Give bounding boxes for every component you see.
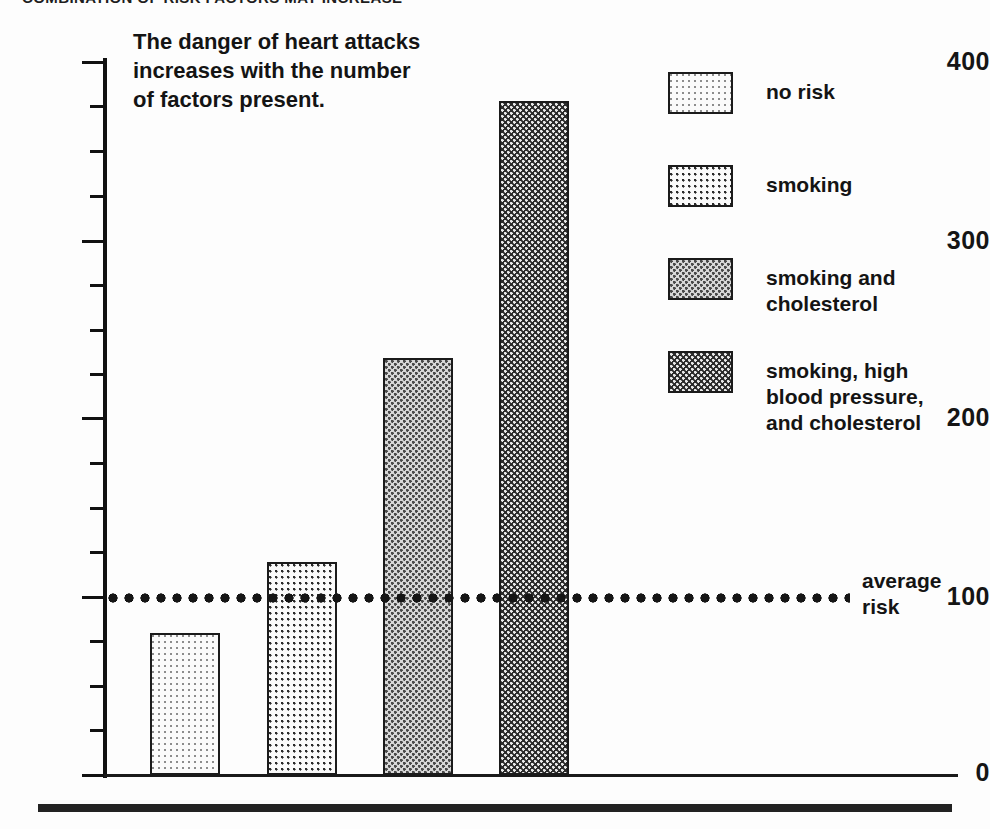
average-risk-label: average risk (862, 568, 941, 620)
bar-no-risk[interactable] (150, 633, 220, 775)
average-risk-label-line-2: risk (862, 594, 941, 620)
y-tick-400 (82, 61, 104, 64)
y-tick-label-200: 200 (912, 403, 990, 432)
legend-swatch-smoking (668, 165, 733, 207)
legend-swatch-smoking-cholesterol (668, 258, 733, 300)
y-minor-tick-350 (90, 150, 104, 153)
annotation-line-3: of factors present. (133, 85, 463, 114)
bar-smoking-bp-cholesterol[interactable] (499, 101, 569, 775)
y-tick-100 (82, 596, 104, 599)
y-minor-tick-275 (90, 284, 104, 287)
y-minor-tick-325 (90, 195, 104, 198)
legend-label-smoking-cholesterol-line-2: cholesterol (766, 291, 896, 317)
legend-swatch-smoking-bp-cholesterol (668, 351, 733, 393)
y-minor-tick-25 (90, 729, 104, 732)
y-tick-200 (82, 417, 104, 420)
bar-smoking-and-cholesterol[interactable] (383, 358, 453, 775)
annotation-line-1: The danger of heart attacks (133, 27, 463, 56)
y-tick-label-400: 400 (912, 47, 990, 76)
y-minor-tick-150 (90, 507, 104, 510)
legend-label-smoking-bp-cholesterol-line-2: blood pressure, (766, 384, 924, 410)
legend-label-no-risk-line-1: no risk (766, 79, 835, 105)
annotation-line-2: increases with the number (133, 56, 463, 85)
legend-label-smoking-cholesterol: smoking and cholesterol (766, 258, 896, 317)
legend-item-smoking-bp-cholesterol[interactable]: smoking, high blood pressure, and choles… (668, 351, 924, 436)
average-risk-label-line-1: average (862, 568, 941, 594)
y-tick-label-300: 300 (912, 226, 990, 255)
y-minor-tick-225 (90, 373, 104, 376)
average-risk-line (108, 593, 850, 603)
y-minor-tick-125 (90, 551, 104, 554)
legend-item-smoking[interactable]: smoking (668, 165, 852, 207)
legend-label-no-risk: no risk (766, 72, 835, 105)
y-tick-0 (82, 774, 104, 777)
legend-label-smoking-cholesterol-line-1: smoking and (766, 265, 896, 291)
y-tick-300 (82, 240, 104, 243)
legend-swatch-no-risk (668, 72, 733, 114)
y-minor-tick-175 (90, 462, 104, 465)
legend-label-smoking: smoking (766, 165, 852, 198)
y-minor-tick-50 (90, 685, 104, 688)
legend-item-no-risk[interactable]: no risk (668, 72, 835, 114)
bar-chart-plot: 400 300 200 100 0 The danger of heart at… (0, 0, 990, 829)
legend-item-smoking-cholesterol[interactable]: smoking and cholesterol (668, 258, 896, 317)
y-minor-tick-250 (90, 329, 104, 332)
y-minor-tick-75 (90, 640, 104, 643)
bottom-rule (38, 804, 952, 812)
y-tick-label-0: 0 (912, 758, 990, 787)
legend-label-smoking-line-1: smoking (766, 172, 852, 198)
legend-label-smoking-bp-cholesterol-line-3: and cholesterol (766, 410, 924, 436)
legend-label-smoking-bp-cholesterol: smoking, high blood pressure, and choles… (766, 351, 924, 436)
legend-label-smoking-bp-cholesterol-line-1: smoking, high (766, 358, 924, 384)
annotation-callout: The danger of heart attacks increases wi… (133, 27, 463, 114)
chart-page: COMBINATION OF RISK FACTORS MAY INCREASE… (0, 0, 990, 829)
y-minor-tick-375 (90, 105, 104, 108)
